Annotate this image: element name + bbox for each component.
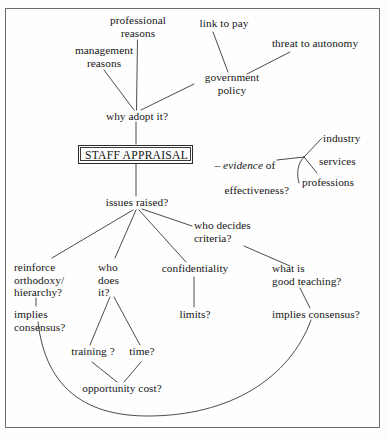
- node-industry[interactable]: industry: [323, 132, 383, 145]
- edge-management-reasons: [104, 70, 134, 110]
- effectiveness-label: effectiveness?: [215, 184, 289, 197]
- node-what-is-good-teaching[interactable]: what is good teaching?: [272, 262, 382, 287]
- node-evidence-of-effectiveness[interactable]: – evidence of effectiveness?: [203, 146, 303, 209]
- node-confidentiality[interactable]: confidentiality: [152, 262, 238, 275]
- node-why-adopt-it[interactable]: why adopt it?: [95, 110, 179, 123]
- edge-government-policy-to-why-adopt: [141, 84, 194, 110]
- central-node-staff-appraisal[interactable]: STAFF APPRAISAL: [78, 145, 193, 164]
- edge-effectiveness-to-services: [304, 157, 317, 173]
- edge-implies-consensus-arc: [38, 320, 311, 416]
- node-professions[interactable]: professions: [302, 176, 378, 189]
- node-issues-raised[interactable]: issues raised?: [94, 196, 180, 209]
- central-node-label: STAFF APPRAISAL: [79, 146, 194, 165]
- edge-time-to-opportunity: [124, 362, 141, 382]
- node-threat-to-autonomy[interactable]: threat to autonomy: [255, 37, 375, 50]
- evidence-emphasis: evidence: [223, 159, 263, 171]
- node-management-reasons[interactable]: management reasons: [58, 44, 150, 69]
- node-government-policy[interactable]: government policy: [193, 71, 271, 96]
- edge-link-to-pay: [213, 32, 228, 72]
- node-professional-reasons[interactable]: professional reasons: [93, 14, 183, 39]
- edge-training-to-opportunity: [92, 362, 117, 382]
- node-services[interactable]: services: [319, 155, 379, 168]
- node-reinforce-orthodoxy[interactable]: reinforce orthodoxy/ hierarchy?: [14, 261, 98, 299]
- node-implies-consensus-right[interactable]: implies consensus?: [272, 308, 389, 321]
- node-training[interactable]: training ?: [64, 345, 122, 358]
- edge-issues-to-reinforce: [52, 210, 133, 258]
- node-opportunity-cost[interactable]: opportunity cost?: [68, 382, 176, 395]
- edge-issues-to-who-decides: [142, 209, 192, 226]
- edge-issues-to-confidentiality: [139, 210, 186, 262]
- node-link-to-pay[interactable]: link to pay: [186, 17, 262, 30]
- evidence-rest: of: [263, 159, 275, 171]
- node-implies-consensus-left[interactable]: implies consensus?: [14, 308, 98, 333]
- node-who-does-it[interactable]: who does it?: [98, 261, 140, 299]
- node-time[interactable]: time?: [120, 345, 164, 358]
- node-limits[interactable]: limits?: [168, 308, 222, 321]
- diagram-page: professional reasons management reasons …: [0, 0, 389, 441]
- node-who-decides-criteria[interactable]: who decides criteria?: [194, 219, 284, 244]
- edge-issues-to-who-does-it: [115, 210, 136, 258]
- edge-who-does-it-to-time: [114, 297, 140, 345]
- edge-good-teaching-to-implies: [300, 288, 310, 308]
